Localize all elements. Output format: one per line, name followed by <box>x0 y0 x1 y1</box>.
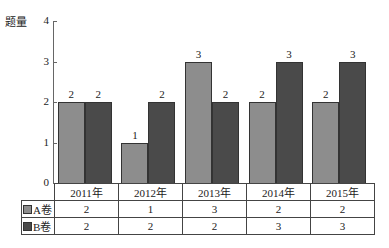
table-cell: 3 <box>311 218 375 235</box>
bar-b-2013年 <box>212 102 239 184</box>
bar-a-2012年 <box>121 143 148 185</box>
y-tick <box>53 102 57 103</box>
table-cell: 2 <box>311 201 375 218</box>
y-tick-label: 1 <box>37 136 49 148</box>
table-cell: 2 <box>55 201 119 218</box>
table-cell: 3 <box>183 201 247 218</box>
header-2015: 2015年 <box>311 184 375 201</box>
y-tick <box>53 21 57 22</box>
y-tick-label: 3 <box>37 55 49 67</box>
bar-value-label: 2 <box>312 88 339 100</box>
table-cell: 2 <box>183 218 247 235</box>
table-row-b: B卷 2 2 2 3 3 <box>22 218 375 235</box>
bar-a-2013年 <box>185 62 212 185</box>
bar-b-2015年 <box>339 62 366 185</box>
header-2013: 2013年 <box>183 184 247 201</box>
legend-swatch-a-icon <box>23 205 32 214</box>
header-2012: 2012年 <box>119 184 183 201</box>
header-2014: 2014年 <box>247 184 311 201</box>
legend-label-b: B卷 <box>33 221 51 233</box>
bar-value-label: 3 <box>276 48 303 60</box>
bar-a-2015年 <box>312 102 339 184</box>
table-header-row: 2011年 2012年 2013年 2014年 2015年 <box>22 184 375 201</box>
table-cell: 2 <box>247 201 311 218</box>
bar-value-label: 3 <box>185 48 212 60</box>
legend-swatch-b-icon <box>23 222 32 231</box>
table-cell: 2 <box>55 218 119 235</box>
table-cell: 2 <box>119 218 183 235</box>
header-2011: 2011年 <box>55 184 119 201</box>
y-tick-label: 2 <box>37 95 49 107</box>
bar-value-label: 2 <box>212 88 239 100</box>
legend-label-a: A卷 <box>33 204 52 216</box>
y-tick-label: 4 <box>37 14 49 26</box>
bar-a-2011年 <box>58 102 85 184</box>
y-axis-label: 题量 <box>5 13 27 29</box>
legend-b: B卷 <box>22 218 55 235</box>
bar-value-label: 1 <box>121 129 148 141</box>
bar-b-2014年 <box>276 62 303 185</box>
bar-value-label: 3 <box>339 48 366 60</box>
bar-value-label: 2 <box>148 88 175 100</box>
bar-value-label: 2 <box>58 88 85 100</box>
bar-value-label: 2 <box>85 88 112 100</box>
table-corner <box>22 184 55 201</box>
legend-a: A卷 <box>22 201 55 218</box>
bar-a-2014年 <box>249 102 276 184</box>
table-cell: 3 <box>247 218 311 235</box>
bar-value-label: 2 <box>249 88 276 100</box>
table-row-a: A卷 2 1 3 2 2 <box>22 201 375 218</box>
y-tick <box>53 143 57 144</box>
y-tick <box>53 62 57 63</box>
bar-b-2011年 <box>85 102 112 184</box>
data-table: 2011年 2012年 2013年 2014年 2015年 A卷 2 1 3 2… <box>21 183 375 235</box>
bar-b-2012年 <box>148 102 175 184</box>
table-cell: 1 <box>119 201 183 218</box>
